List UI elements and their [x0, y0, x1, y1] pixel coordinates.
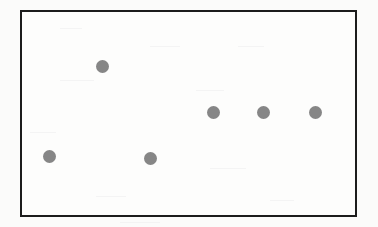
- data-point: [207, 106, 220, 119]
- data-point: [309, 106, 322, 119]
- plot-border: [20, 10, 357, 217]
- data-point: [96, 60, 109, 73]
- plot-area: [22, 12, 355, 215]
- scan-speck: [120, 222, 160, 223]
- data-point: [257, 106, 270, 119]
- data-point: [43, 150, 56, 163]
- data-point: [144, 152, 157, 165]
- figure-canvas: [0, 0, 378, 227]
